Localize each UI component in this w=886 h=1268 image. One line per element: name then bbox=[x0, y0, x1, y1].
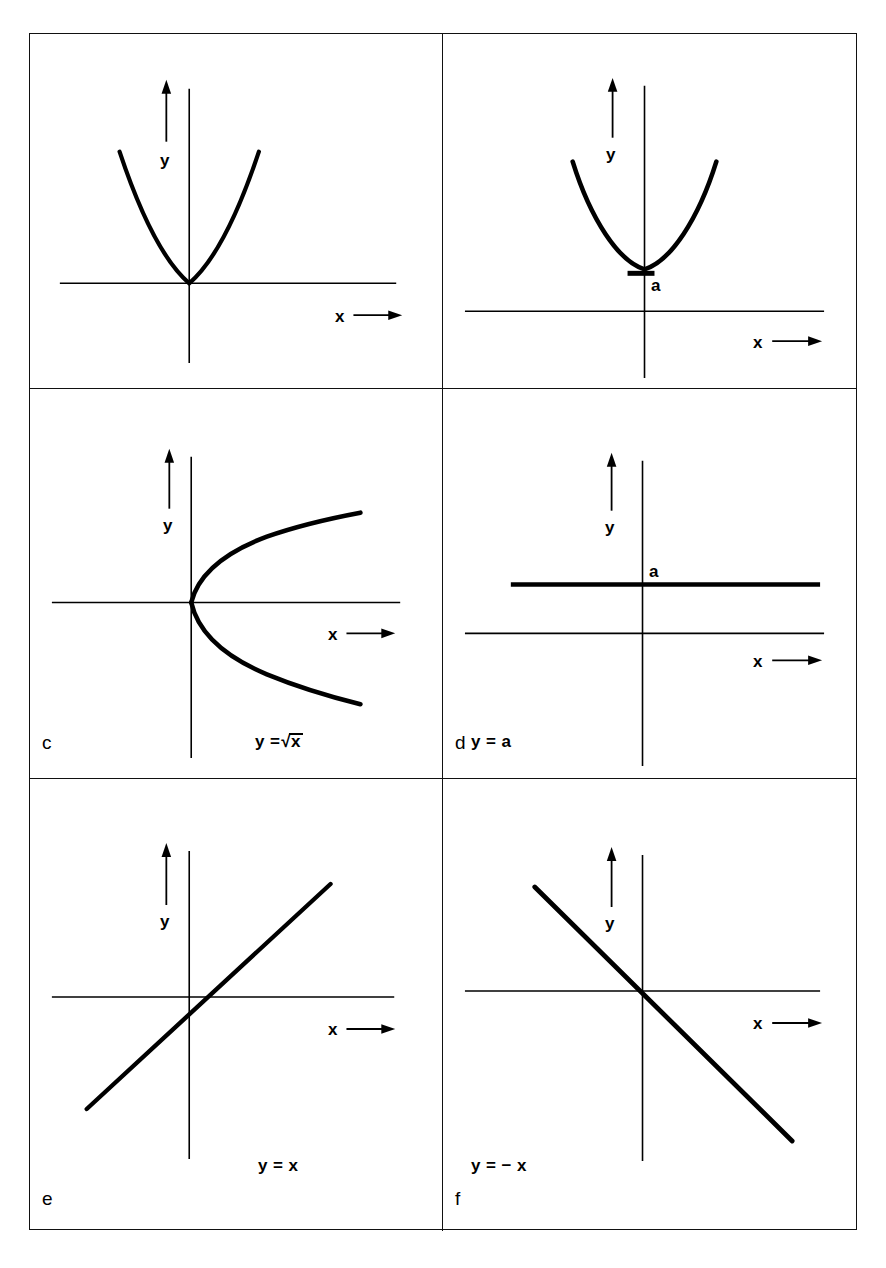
plot-a: y x bbox=[30, 34, 442, 388]
curve-sqrt-lower bbox=[191, 602, 360, 704]
y-arrow-head bbox=[607, 847, 617, 861]
figure-frame: y x y = x2 a y x a bbox=[29, 33, 857, 1230]
plot-c: y x bbox=[30, 389, 442, 778]
x-arrow-head bbox=[381, 629, 395, 639]
radical-sign: √x bbox=[280, 733, 301, 750]
x-axis-label: x bbox=[335, 308, 344, 325]
y-axis-label: y bbox=[606, 146, 615, 163]
panel-letter-e: e bbox=[42, 1189, 53, 1208]
panel-a: y x y = x2 a bbox=[30, 34, 443, 389]
panel-d: y x a y = a d bbox=[443, 389, 856, 779]
y-axis-label: y bbox=[160, 913, 169, 930]
top-cropped-caption bbox=[0, 0, 886, 6]
y-axis-label: y bbox=[605, 915, 614, 932]
y-axis-label: y bbox=[160, 152, 169, 169]
x-arrow-head bbox=[808, 1018, 822, 1028]
curve-sqrt-upper bbox=[191, 513, 360, 603]
plot-e: y x bbox=[30, 779, 442, 1231]
panel-c: y x y =√x c bbox=[30, 389, 443, 779]
x-axis-label: x bbox=[753, 334, 762, 351]
x-axis-label: x bbox=[328, 626, 337, 643]
x-arrow-head bbox=[808, 336, 822, 346]
panel-letter-d: d bbox=[455, 733, 466, 752]
x-axis-label: x bbox=[753, 653, 762, 670]
panel-letter-c: c bbox=[42, 733, 52, 752]
constant-label-a: a bbox=[649, 563, 658, 580]
x-arrow-head bbox=[388, 310, 402, 320]
x-arrow-head bbox=[381, 1024, 395, 1034]
panel-e: y x y = x e bbox=[30, 779, 443, 1231]
panel-letter-f: f bbox=[455, 1189, 460, 1208]
plot-d: y x a bbox=[443, 389, 856, 778]
x-arrow-head bbox=[808, 656, 822, 666]
y-arrow-head bbox=[162, 80, 172, 94]
formula-d: y = a bbox=[471, 733, 511, 750]
y-arrow-head bbox=[162, 843, 172, 857]
formula-c: y =√x bbox=[255, 733, 301, 750]
formula-f: y = − x bbox=[471, 1157, 527, 1174]
x-axis-label: x bbox=[328, 1021, 337, 1038]
y-arrow-head bbox=[165, 449, 175, 463]
plot-b: y x a bbox=[443, 34, 856, 388]
y-axis-label: y bbox=[605, 519, 614, 536]
y-arrow-head bbox=[607, 453, 617, 467]
formula-e: y = x bbox=[258, 1157, 298, 1174]
x-axis-label: x bbox=[753, 1015, 762, 1032]
panel-b: y x a y = a + x2 b bbox=[443, 34, 856, 389]
y-axis-label: y bbox=[163, 517, 172, 534]
y-arrow-head bbox=[608, 78, 618, 92]
panel-f: y x y = − x f bbox=[443, 779, 856, 1231]
constant-label-a: a bbox=[651, 277, 660, 294]
